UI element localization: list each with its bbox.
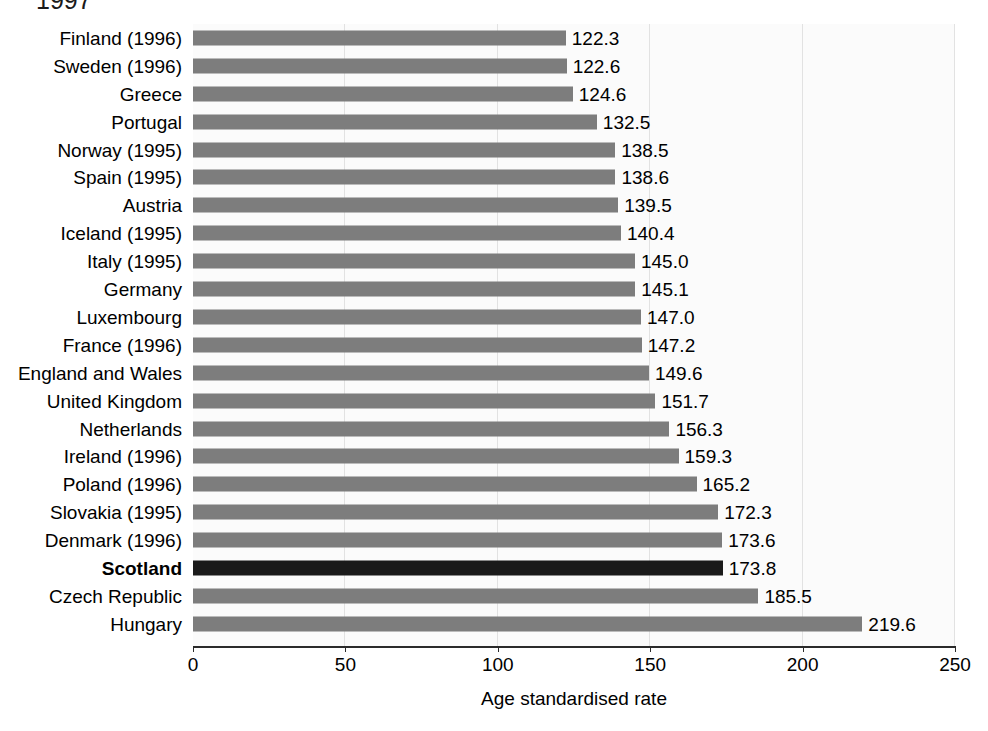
bar [193,58,567,73]
category-label: Ireland (1996) [64,446,182,467]
category-label: Netherlands [80,418,182,439]
x-tick-label-200: 200 [787,654,819,676]
category-label: Greece [120,83,182,104]
bar-row: Norway (1995)138.5 [0,136,988,164]
bar [193,170,615,185]
chart-title: 1997 [36,0,92,15]
bar-value-label: 185.5 [758,585,812,606]
x-tick-150 [650,646,651,652]
bar-value-label: 147.0 [641,306,695,327]
bar [193,393,655,408]
bar-row: England and Wales149.6 [0,359,988,387]
bar-value-label: 156.3 [669,418,723,439]
x-tick-50 [345,646,346,652]
bar-value-label: 147.2 [642,334,696,355]
bar-value-label: 172.3 [718,502,772,523]
bar-row: Italy (1995)145.0 [0,247,988,275]
bar-row: Ireland (1996)159.3 [0,443,988,471]
bar [193,142,615,157]
category-label: United Kingdom [47,390,182,411]
bar [193,477,697,492]
bar-value-label: 122.3 [566,27,620,48]
bar [193,337,642,352]
bar-value-label: 145.0 [635,251,689,272]
bar-row: Sweden (1996)122.6 [0,52,988,80]
bar-row: Scotland173.8 [0,554,988,582]
x-tick-label-100: 100 [482,654,514,676]
category-label: Sweden (1996) [53,55,182,76]
bar [193,309,641,324]
x-tick-100 [498,646,499,652]
bar-chart: 1997 Finland (1996)122.3Sweden (1996)122… [0,0,988,731]
x-tick-label-150: 150 [634,654,666,676]
category-label: Italy (1995) [87,251,182,272]
bar-value-label: 173.8 [723,558,777,579]
bar-row: Poland (1996)165.2 [0,470,988,498]
category-label: Luxembourg [76,306,182,327]
category-label: Poland (1996) [63,474,182,495]
bar [193,198,618,213]
x-tick-0 [193,646,194,652]
bar-value-label: 124.6 [573,83,627,104]
category-label: Scotland [102,558,182,579]
bar [193,449,679,464]
bar-row: Luxembourg147.0 [0,303,988,331]
category-label: Denmark (1996) [45,530,182,551]
bar-row: Spain (1995)138.6 [0,164,988,192]
bar [193,365,649,380]
bar-row: Portugal132.5 [0,108,988,136]
bar [193,616,862,631]
category-label: Germany [104,279,182,300]
bar-value-label: 140.4 [621,223,675,244]
bar [193,533,722,548]
category-label: Portugal [111,111,182,132]
bar [193,114,597,129]
category-label: Czech Republic [49,585,182,606]
bar-value-label: 149.6 [649,362,703,383]
bar-value-label: 139.5 [618,195,672,216]
x-tick-label-0: 0 [188,654,199,676]
bar [193,561,723,576]
bar-value-label: 122.6 [567,55,621,76]
bar [193,254,635,269]
bar-row: Czech Republic185.5 [0,582,988,610]
bar [193,588,758,603]
bar-row: Austria139.5 [0,191,988,219]
bar [193,30,566,45]
bar-value-label: 159.3 [679,446,733,467]
bar-value-label: 138.5 [615,139,669,160]
category-label: Spain (1995) [73,167,182,188]
bar-value-label: 145.1 [635,279,689,300]
bar-value-label: 151.7 [655,390,709,411]
bar-row: Germany145.1 [0,275,988,303]
category-label: Hungary [110,613,182,634]
x-tick-250 [955,646,956,652]
category-label: Iceland (1995) [61,223,182,244]
category-label: England and Wales [18,362,182,383]
category-label: France (1996) [63,334,182,355]
x-tick-200 [803,646,804,652]
bar [193,86,573,101]
category-label: Finland (1996) [59,27,182,48]
x-axis-label: Age standardised rate [193,688,955,710]
bar-row: France (1996)147.2 [0,331,988,359]
bar-row: Denmark (1996)173.6 [0,526,988,554]
bar [193,226,621,241]
bar-row: Hungary219.6 [0,610,988,638]
x-tick-label-50: 50 [335,654,356,676]
bar-row: Netherlands156.3 [0,415,988,443]
bar-value-label: 173.6 [722,530,776,551]
category-label: Austria [123,195,182,216]
bar-value-label: 219.6 [862,613,916,634]
category-label: Norway (1995) [57,139,182,160]
bar [193,421,669,436]
bar-row: Slovakia (1995)172.3 [0,498,988,526]
bar-row: Greece124.6 [0,80,988,108]
bar [193,282,635,297]
x-axis-line [193,646,956,648]
bar-row: Iceland (1995)140.4 [0,219,988,247]
bar-value-label: 132.5 [597,111,651,132]
x-tick-label-250: 250 [939,654,971,676]
bar-row: United Kingdom151.7 [0,387,988,415]
bar-value-label: 165.2 [697,474,751,495]
